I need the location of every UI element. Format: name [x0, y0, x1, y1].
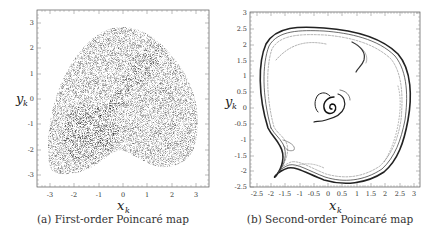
ytick-label: -1 [241, 136, 247, 144]
ytick-label: -3 [28, 171, 34, 179]
ytick-label: -0.5 [234, 120, 247, 128]
right-xlabel: x [329, 198, 337, 213]
left-plot: -3 -2 -1 0 1 2 3 3 2 1 0 -1 -2 -3 x k y … [15, 10, 209, 215]
figure: -3 -2 -1 0 1 2 3 3 2 1 0 -1 -2 -3 x k y … [0, 0, 434, 242]
xtick-label: -1.5 [279, 190, 292, 198]
right-ylabel-subscript: k [232, 102, 237, 111]
ytick-label: 3 [30, 19, 34, 27]
ytick-label: 0 [30, 95, 34, 103]
ytick-label: -2 [241, 167, 247, 175]
right-caption: (b) Second-order Poincaré map [247, 213, 413, 225]
left-caption: (a) First-order Poincaré map [37, 213, 189, 225]
right-xtick-labels: -2.5 -2 -1.5 -1 -0.5 0 0.5 1 1.5 2 2.5 3 [251, 190, 416, 198]
right-attractor-loop [260, 27, 410, 183]
xtick-label: 3 [412, 190, 416, 198]
ytick-label: 2 [243, 41, 247, 49]
xtick-label: -1 [297, 190, 303, 198]
left-ytick-labels: 3 2 1 0 -1 -2 -3 [28, 19, 34, 179]
ytick-label: 1 [30, 70, 34, 78]
ytick-label: -2 [28, 146, 34, 154]
xtick-label: -1 [96, 191, 102, 199]
xtick-label: 3 [194, 191, 198, 199]
central-spiral [314, 90, 350, 122]
xtick-label: 2 [170, 191, 174, 199]
right-plot: -2.5 -2 -1.5 -1 -0.5 0 0.5 1 1.5 2 2.5 3… [224, 9, 420, 215]
left-attractor-cloud [48, 27, 198, 174]
xtick-label: 2 [383, 190, 387, 198]
ytick-label: 0.5 [237, 88, 247, 96]
xtick-label: 0 [326, 190, 330, 198]
ytick-label: -1 [28, 120, 34, 128]
right-ytick-labels: 3 2.5 2 1.5 1 0.5 0 -0.5 -1 -1.5 -2 -2.5 [234, 9, 247, 191]
ytick-label: 1 [243, 72, 247, 80]
ytick-label: 0 [243, 104, 247, 112]
xtick-label: 0.5 [337, 190, 347, 198]
xtick-label: -0.5 [308, 190, 321, 198]
xtick-label: 1 [355, 190, 359, 198]
ytick-label: -1.5 [234, 152, 247, 160]
ytick-label: 2 [30, 44, 34, 52]
ytick-label: 3 [243, 9, 247, 17]
ytick-label: 1.5 [237, 57, 247, 65]
xtick-label: 1.5 [366, 190, 376, 198]
xtick-label: -2.5 [251, 190, 264, 198]
left-ylabel-subscript: k [23, 99, 28, 108]
xtick-label: 2.5 [395, 190, 405, 198]
xtick-label: 1 [145, 191, 149, 199]
xtick-label: -2 [71, 191, 77, 199]
ytick-label: 2.5 [237, 25, 247, 33]
xtick-label: -2 [268, 190, 274, 198]
left-xlabel: x [117, 198, 125, 213]
ytick-label: -2.5 [234, 183, 247, 191]
xtick-label: -3 [47, 191, 53, 199]
